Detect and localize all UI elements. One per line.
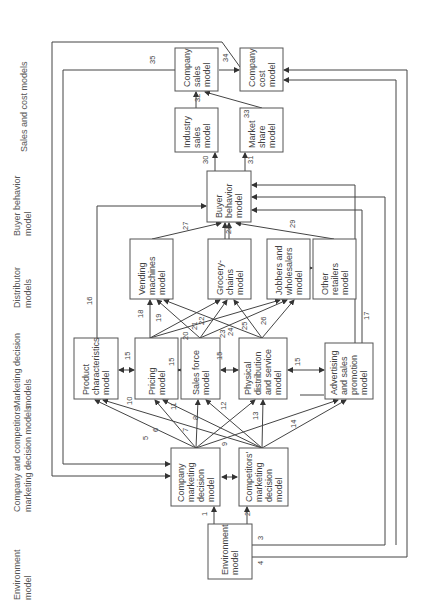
link-number-14: 14 bbox=[289, 420, 298, 428]
box-sales-force: Sales forcemodel bbox=[181, 338, 220, 399]
box-jobbers: Jobbers andwholesalersmodel bbox=[267, 239, 310, 299]
box-company-sales: Companysalesmodel bbox=[175, 48, 218, 91]
link-number-34: 34 bbox=[221, 54, 230, 62]
link-numbers: 1234567891011121314151617181920212223242… bbox=[85, 54, 371, 565]
link-number-17: 17 bbox=[362, 312, 371, 320]
link-number-32: 32 bbox=[193, 94, 202, 102]
link-number-30: 30 bbox=[201, 156, 210, 164]
row-label-sales-cost: Sales and cost models bbox=[19, 61, 29, 152]
row-label-buyer-behavior: Buyer behaviormodel bbox=[12, 175, 33, 236]
box-company-marketing: Companymarketingdecisionmodel bbox=[171, 448, 220, 506]
link-number-10: 10 bbox=[125, 397, 134, 405]
link-number-11: 11 bbox=[169, 402, 178, 410]
link-number-4: 4 bbox=[256, 561, 265, 565]
box-other-retailers: Otherretailersmodel bbox=[313, 239, 356, 299]
link-number-13: 13 bbox=[251, 412, 260, 420]
link-number-27: 27 bbox=[181, 222, 190, 230]
link-number-15: 15 bbox=[123, 352, 132, 360]
link-number-15: 15 bbox=[293, 358, 302, 366]
box-label: Pricingmodel bbox=[147, 367, 167, 395]
link-number-20: 20 bbox=[181, 332, 190, 340]
box-physical: Physicaldistributionand servicemodel bbox=[239, 338, 287, 399]
row-label-environment: Environmentmodel bbox=[12, 549, 33, 600]
box-company-cost: Companycostmodel bbox=[240, 48, 283, 91]
link-number-25: 25 bbox=[240, 322, 249, 330]
box-grocery: Grocery-chainsmodel bbox=[208, 239, 251, 299]
box-competitors-marketing: Competitors'marketingdecisionmodel bbox=[239, 448, 288, 506]
link-number-8: 8 bbox=[191, 416, 200, 420]
link-number-2: 2 bbox=[243, 512, 252, 516]
link-number-6: 6 bbox=[151, 428, 160, 432]
link-number-15: 15 bbox=[215, 352, 224, 360]
row-label-company-competitors: Company and competitors'marketing decisi… bbox=[12, 405, 33, 512]
link-number-29: 29 bbox=[288, 220, 297, 228]
link-number-24: 24 bbox=[226, 328, 235, 336]
link-number-19: 19 bbox=[154, 314, 163, 322]
box-environment: Environmentmodel bbox=[208, 524, 252, 579]
marketing-model-diagram: EnvironmentmodelCompany and competitors'… bbox=[0, 0, 433, 607]
link-number-12: 12 bbox=[219, 402, 228, 410]
link-number-1: 1 bbox=[200, 512, 209, 516]
link-number-28: 28 bbox=[224, 226, 233, 234]
link-number-9: 9 bbox=[220, 442, 229, 446]
link-number-26: 26 bbox=[259, 317, 268, 325]
row-label-distributor: Distributormodels bbox=[12, 267, 33, 308]
link-number-22: 22 bbox=[197, 317, 206, 325]
box-advertising: Advertisingand salespromotionmodel bbox=[325, 343, 373, 399]
link-number-16: 16 bbox=[85, 297, 94, 305]
link-number-18: 18 bbox=[136, 310, 145, 318]
link-number-5: 5 bbox=[141, 436, 150, 440]
box-industry-sales: Industrysalesmodel bbox=[175, 108, 218, 152]
row-label-marketing-decision: Marketing decisionmodels bbox=[12, 333, 33, 408]
link-number-33: 33 bbox=[242, 110, 251, 118]
box-product: Productcharacteristicsmodel bbox=[74, 337, 118, 399]
link-number-7: 7 bbox=[181, 428, 190, 432]
link-number-3: 3 bbox=[256, 536, 265, 540]
link-number-31: 31 bbox=[246, 156, 255, 164]
link-number-35: 35 bbox=[148, 56, 157, 64]
box-pricing: Pricingmodel bbox=[135, 338, 178, 399]
box-vending: Vendingmachinesmodel bbox=[130, 239, 173, 299]
box-buyer-behavior: Buyerbehaviormodel bbox=[207, 171, 251, 222]
link-number-15: 15 bbox=[167, 358, 176, 366]
